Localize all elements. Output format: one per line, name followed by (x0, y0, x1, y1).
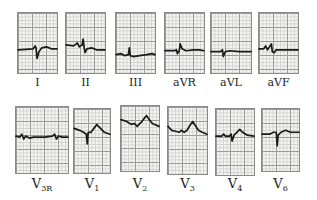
ecg-waveform (216, 109, 254, 175)
ecg-strip-avr (164, 12, 205, 74)
ecg-strip-i (17, 12, 58, 74)
ecg-strip-avl (210, 12, 252, 74)
ecg-strip-ii (65, 12, 106, 74)
ecg-strip-v2 (120, 105, 160, 172)
ecg-strip-v6 (261, 108, 300, 172)
ecg-waveform (116, 13, 155, 73)
ecg-waveform (121, 106, 159, 171)
ecg-waveform (259, 13, 298, 73)
ecg-strip-v4 (215, 108, 255, 176)
ecg-waveform (66, 13, 105, 73)
lead-label-v2: V2 (120, 176, 160, 193)
lead-label-i: I (17, 76, 58, 89)
lead-label-avf: aVF (258, 76, 299, 89)
ecg-waveform (165, 13, 204, 73)
ecg-waveform (262, 109, 299, 171)
lead-label-v4: V4 (215, 176, 255, 193)
ecg-strip-v1 (73, 108, 111, 174)
lead-label-v6: V6 (261, 176, 300, 193)
ecg-waveform (168, 107, 207, 174)
lead-label-iii: III (115, 76, 156, 89)
ecg-strip-avf (258, 12, 299, 74)
lead-label-v3: V3 (167, 176, 208, 193)
ecg-strip-v3r (15, 106, 69, 174)
ecg-waveform (18, 13, 57, 73)
lead-label-v1: V1 (73, 176, 111, 193)
lead-label-avr: aVR (164, 76, 205, 89)
ecg-strip-v3 (167, 106, 208, 175)
lead-label-avl: aVL (210, 76, 252, 89)
ecg-waveform (211, 13, 251, 73)
ecg-waveform (16, 107, 68, 173)
lead-label-ii: II (65, 76, 106, 89)
lead-label-v3r: V3R (15, 176, 69, 193)
ecg-strip-iii (115, 12, 156, 74)
ecg-waveform (74, 109, 110, 173)
